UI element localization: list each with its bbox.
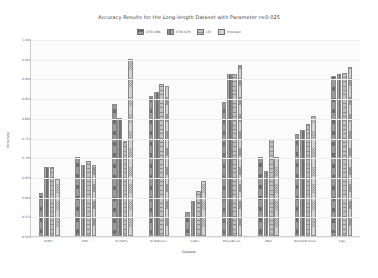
x-axis-tick-mark [232, 240, 233, 242]
gridline [31, 217, 360, 218]
gridline [31, 79, 360, 80]
bar[interactable] [75, 157, 80, 236]
legend-item[interactable]: Proposed [218, 29, 240, 35]
bar[interactable] [258, 157, 263, 236]
bar[interactable] [128, 59, 133, 236]
legend-label: Proposed [227, 30, 241, 34]
y-axis-tick-label: 0.75 [22, 137, 29, 141]
y-axis-tick-label: 0.95 [22, 58, 29, 62]
y-axis-tick-label: 0.50 [22, 235, 29, 239]
y-axis-tick-label: 0.60 [22, 196, 29, 200]
bar[interactable] [348, 67, 353, 236]
bar[interactable] [201, 181, 206, 236]
y-axis-tick-mark [29, 59, 31, 60]
bar[interactable] [295, 134, 300, 236]
gridline [31, 139, 360, 140]
y-axis-tick-label: 0.65 [22, 176, 29, 180]
legend-label: DTW-1NN [146, 30, 160, 34]
y-axis-tick-mark [29, 177, 31, 178]
x-axis-tick-mark [342, 240, 343, 242]
gridline [31, 178, 360, 179]
legend-swatch-icon [218, 29, 225, 35]
y-axis-tick-mark [29, 118, 31, 119]
legend-label: DTW-SVM [176, 30, 191, 34]
bar[interactable] [300, 130, 305, 236]
bar[interactable] [306, 124, 311, 236]
x-axis-tick-mark [268, 240, 269, 242]
y-axis-tick-label: 1.00 [22, 38, 29, 42]
bar[interactable] [269, 139, 274, 236]
gridline [31, 158, 360, 159]
bar[interactable] [81, 165, 86, 236]
x-axis-tick-mark [85, 240, 86, 242]
gridline [31, 60, 360, 61]
chart-title: Accuracy Results for the Long-length Dat… [0, 14, 378, 20]
bar[interactable] [264, 171, 269, 236]
bar[interactable] [112, 104, 117, 236]
legend-swatch-icon [137, 29, 144, 35]
y-axis-tick-label: 0.70 [22, 156, 29, 160]
legend-item[interactable]: DTW-1NN [137, 29, 160, 35]
x-axis-tick-mark [305, 240, 306, 242]
legend-swatch-icon [167, 29, 174, 35]
y-axis-tick-mark [29, 79, 31, 80]
plot-area: 0.500.550.600.650.700.750.800.850.900.95… [30, 40, 360, 237]
y-axis-tick-label: 0.85 [22, 97, 29, 101]
y-axis-tick-mark [29, 237, 31, 238]
legend-item[interactable]: LSF [197, 29, 211, 35]
bar[interactable] [238, 65, 243, 236]
gridline [31, 198, 360, 199]
gridline [31, 237, 360, 238]
x-axis-tick-mark [195, 240, 196, 242]
bar[interactable] [39, 193, 44, 236]
bar[interactable] [222, 102, 227, 236]
y-axis-tick-label: 0.55 [22, 215, 29, 219]
y-axis-title: Accuracy [6, 132, 10, 147]
y-axis-tick-mark [29, 197, 31, 198]
chart-figure: Accuracy Results for the Long-length Dat… [0, 0, 378, 278]
x-axis-tick-mark [158, 240, 159, 242]
bar[interactable] [185, 212, 190, 236]
x-axis-tick-labels: ACSF1BeefBeetleFlyBirdChickenCoffeeEthan… [30, 240, 360, 243]
legend-item[interactable]: DTW-SVM [167, 29, 190, 35]
x-axis-tick-mark [48, 240, 49, 242]
bar[interactable] [274, 157, 279, 236]
bar[interactable] [55, 179, 60, 236]
y-axis-tick-mark [29, 99, 31, 100]
x-axis-tick-mark [122, 240, 123, 242]
gridline [31, 40, 360, 41]
y-axis-tick-mark [29, 40, 31, 41]
y-axis-tick-mark [29, 138, 31, 139]
bar[interactable] [123, 141, 128, 236]
legend-swatch-icon [197, 29, 204, 35]
gridline [31, 99, 360, 100]
legend-label: LSF [206, 30, 211, 34]
y-axis-tick-label: 0.90 [22, 77, 29, 81]
bar[interactable] [154, 92, 159, 236]
bar[interactable] [149, 96, 154, 236]
y-axis-tick-mark [29, 158, 31, 159]
bar[interactable] [159, 84, 164, 236]
bar[interactable] [92, 165, 97, 236]
x-axis-title: Dataset [0, 250, 378, 254]
bar[interactable] [165, 86, 170, 236]
y-axis-tick-label: 0.80 [22, 117, 29, 121]
chart-legend: DTW-1NNDTW-SVMLSFProposed [0, 29, 378, 35]
bar[interactable] [342, 73, 347, 237]
y-axis-tick-mark [29, 217, 31, 218]
bar[interactable] [331, 76, 336, 236]
gridline [31, 119, 360, 120]
